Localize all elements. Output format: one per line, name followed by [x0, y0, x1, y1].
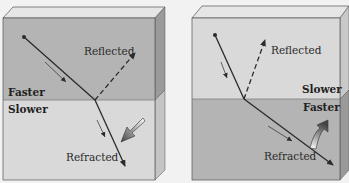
block-top-face	[192, 6, 349, 18]
refracted-label: Refracted	[66, 151, 119, 163]
block-side-lower	[155, 90, 165, 180]
bottom-medium-label: Slower	[8, 103, 48, 115]
block-side-upper	[155, 7, 165, 100]
top-medium-label: Slower	[302, 83, 342, 95]
left-panel: Faster Slower Reflected Refracted	[3, 7, 165, 180]
reflected-label: Reflected	[84, 45, 135, 57]
bottom-medium-label: Faster	[303, 101, 340, 113]
block-top-face	[3, 7, 165, 18]
reflected-label: Reflected	[271, 44, 322, 56]
right-panel: Slower Faster Reflected Refracted	[192, 6, 349, 180]
refraction-diagram: Faster Slower Reflected Refracted Slower…	[0, 0, 349, 183]
top-medium-label: Faster	[8, 86, 45, 98]
refracted-label: Refracted	[264, 150, 317, 162]
block-side-lower	[340, 90, 349, 180]
